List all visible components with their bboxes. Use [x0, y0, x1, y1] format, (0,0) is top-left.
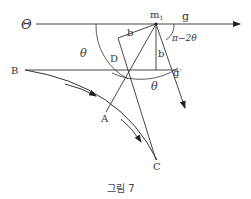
label-c: C [153, 161, 161, 172]
label-g-prime: g′ [173, 67, 182, 78]
curve-b-to-c [25, 70, 157, 160]
label-b: B [11, 65, 18, 76]
label-d: D [110, 53, 118, 64]
label-m1: m1 [150, 9, 163, 21]
label-g: g [182, 10, 189, 23]
label-b-right: b [158, 48, 164, 59]
physics-diagram: Θ g m1 π−2θ θ b D b g′ θ B A C 그림 7 [0, 0, 251, 199]
label-theta-upper: Θ [21, 17, 32, 32]
label-pi-minus-2theta: π−2θ [171, 33, 197, 43]
figure-caption: 그림 7 [107, 183, 135, 194]
theta-arc-large [96, 24, 128, 79]
d-vertical-line [118, 38, 128, 70]
label-theta-left: θ [80, 47, 87, 60]
b-line-top [118, 24, 156, 38]
label-b-top: b [127, 27, 133, 38]
label-a: A [100, 113, 109, 124]
m1-point [154, 22, 157, 25]
label-theta-bottom: θ [151, 80, 158, 93]
